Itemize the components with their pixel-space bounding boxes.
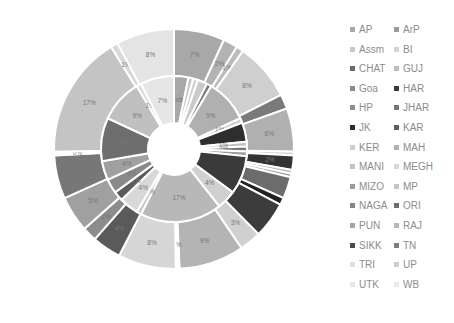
legend-swatch-icon	[350, 86, 355, 91]
outer-segment-label: 17%	[83, 99, 96, 106]
legend-swatch-icon	[394, 27, 399, 32]
legend-label: PUN	[359, 220, 380, 231]
legend-swatch-icon	[350, 203, 355, 208]
legend-item-up[interactable]: UP	[394, 259, 417, 270]
legend-swatch-icon	[394, 243, 399, 248]
legend-item-sikk[interactable]: SIKK	[350, 240, 382, 251]
legend-item-pun[interactable]: PUN	[350, 220, 380, 231]
legend-item-kar[interactable]: KAR	[394, 122, 424, 133]
legend-label: TRI	[359, 259, 375, 270]
legend-swatch-icon	[350, 243, 355, 248]
legend-item-hp[interactable]: HP	[350, 102, 373, 113]
legend-swatch-icon	[394, 164, 399, 169]
legend-item-tri[interactable]: TRI	[350, 259, 375, 270]
legend-label: CHAT	[359, 63, 385, 74]
legend-swatch-icon	[350, 262, 355, 267]
legend-label: TN	[403, 240, 416, 251]
legend-label: GUJ	[403, 63, 423, 74]
legend-swatch-icon	[350, 145, 355, 150]
legend-label: JK	[359, 122, 371, 133]
legend-swatch-icon	[394, 223, 399, 228]
legend-label: MP	[403, 181, 418, 192]
outer-segment-label: 8%	[146, 51, 156, 58]
legend-item-raj[interactable]: RAJ	[394, 220, 422, 231]
legend-swatch-icon	[350, 164, 355, 169]
legend-swatch-icon	[350, 184, 355, 189]
legend-item-tn[interactable]: TN	[394, 240, 416, 251]
legend-item-megh[interactable]: MEGH	[394, 161, 433, 172]
legend-label: KAR	[403, 122, 424, 133]
legend-swatch-icon	[394, 66, 399, 71]
legend-item-ori[interactable]: ORI	[394, 200, 421, 211]
legend-item-guj[interactable]: GUJ	[394, 63, 423, 74]
legend-item-naga[interactable]: NAGA	[350, 200, 387, 211]
legend-label: ArP	[403, 24, 420, 35]
legend-item-utk[interactable]: UTK	[350, 279, 379, 290]
legend-item-wb[interactable]: WB	[394, 279, 419, 290]
center-hole	[148, 123, 200, 175]
legend-label: SIKK	[359, 240, 382, 251]
legend-label: HP	[359, 102, 373, 113]
outer-segment-label: 7%	[190, 51, 200, 58]
inner-segment-label: 4%	[122, 160, 132, 167]
inner-segment-label: 9%	[206, 112, 216, 119]
legend-swatch-icon	[394, 282, 399, 287]
legend-item-bi[interactable]: BI	[394, 44, 412, 55]
legend-label: MIZO	[359, 181, 384, 192]
legend-item-jk[interactable]: JK	[350, 122, 371, 133]
legend-label: AP	[359, 24, 372, 35]
legend-item-har[interactable]: HAR	[394, 83, 424, 94]
legend-label: JHAR	[403, 102, 429, 113]
legend-item-ker[interactable]: KER	[350, 142, 380, 153]
inner-segment-label: 9%	[133, 112, 143, 119]
inner-segment-label: 7%	[158, 97, 168, 104]
legend-label: UTK	[359, 279, 379, 290]
legend-item-assm[interactable]: Assm	[350, 44, 384, 55]
outer-segment-label: 2%	[101, 213, 111, 220]
legend-swatch-icon	[394, 86, 399, 91]
legend-swatch-icon	[394, 184, 399, 189]
outer-segment-label: 8%	[242, 82, 252, 89]
legend-label: MANI	[359, 161, 384, 172]
sunburst-chart: 7%2%1%8%6%2%3%9%0%8%4%2%5%6%0%17%1%8% In…	[0, 0, 454, 323]
inner-segment-label: 4%	[205, 179, 215, 186]
legend-swatch-icon	[350, 105, 355, 110]
legend-item-ap[interactable]: AP	[350, 24, 372, 35]
legend-item-mani[interactable]: MANI	[350, 161, 384, 172]
outer-segment-label: 4%	[115, 225, 125, 232]
outer-segment-label: 6%	[76, 168, 86, 175]
legend-label: WB	[403, 279, 419, 290]
legend-swatch-icon	[350, 282, 355, 287]
legend-swatch-icon	[394, 145, 399, 150]
outer-segment-label: 2%	[265, 156, 275, 163]
legend-item-mah[interactable]: MAH	[394, 142, 425, 153]
legend-item-arp[interactable]: ArP	[394, 24, 420, 35]
legend-swatch-icon	[350, 66, 355, 71]
legend-swatch-icon	[350, 223, 355, 228]
legend-label: MEGH	[403, 161, 433, 172]
legend-label: ORI	[403, 200, 421, 211]
legend-swatch-icon	[394, 125, 399, 130]
legend-swatch-icon	[350, 125, 355, 130]
legend-swatch-icon	[350, 47, 355, 52]
outer-segment-label: 5%	[88, 197, 98, 204]
legend-label: BI	[403, 44, 412, 55]
legend-swatch-icon	[394, 47, 399, 52]
legend-item-mizo[interactable]: MIZO	[350, 181, 384, 192]
legend-label: Goa	[359, 83, 378, 94]
legend-swatch-icon	[350, 27, 355, 32]
legend-label: MAH	[403, 142, 425, 153]
legend-label: NAGA	[359, 200, 387, 211]
legend-swatch-icon	[394, 262, 399, 267]
legend-swatch-icon	[394, 203, 399, 208]
legend-label: KER	[359, 142, 380, 153]
legend-label: HAR	[403, 83, 424, 94]
legend-item-chat[interactable]: CHAT	[350, 63, 385, 74]
legend-label: UP	[403, 259, 417, 270]
legend-label: Assm	[359, 44, 384, 55]
legend-item-mp[interactable]: MP	[394, 181, 418, 192]
inner-segment-label: 17%	[172, 194, 185, 201]
inner-segment-label: 9%	[120, 138, 130, 145]
legend-item-goa[interactable]: Goa	[350, 83, 378, 94]
legend-item-jhar[interactable]: JHAR	[394, 102, 429, 113]
